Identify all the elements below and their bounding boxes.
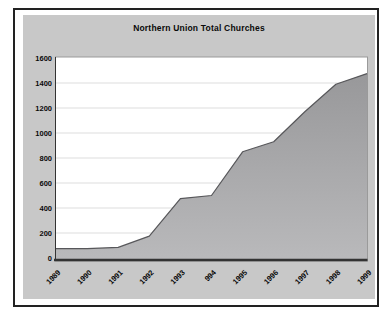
y-axis-label: 1200 [35,104,52,113]
y-axis-label: 0 [48,254,52,263]
x-axis-label: 1997 [293,268,311,286]
x-axis-label: 994 [203,267,219,283]
area-chart-plot: 0200400600800100012001400160019891990199… [0,0,389,317]
y-axis-label: 200 [39,229,52,238]
x-axis-label: 1993 [169,268,187,286]
y-axis-label: 800 [39,154,52,163]
x-axis-label: 1990 [75,268,93,286]
y-axis-label: 1000 [35,129,52,138]
y-axis-label: 600 [39,179,52,188]
x-axis-label: 1998 [324,268,342,286]
y-axis-label: 400 [39,204,52,213]
y-axis-label: 1600 [35,54,52,63]
x-axis-label: 1995 [231,268,249,286]
y-axis-label: 1400 [35,79,52,88]
x-axis-label: 1999 [355,268,373,286]
x-axis-label: 1996 [262,268,280,286]
x-axis-label: 1992 [138,268,156,286]
x-axis-label: 1989 [44,268,62,286]
x-axis-label: 1991 [106,268,124,286]
